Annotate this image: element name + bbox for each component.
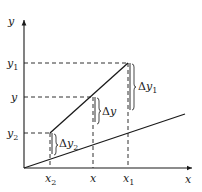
y1-label: y1	[6, 57, 18, 72]
delta-y1-label: Δy1	[138, 80, 157, 95]
brace-delta-y2	[54, 134, 58, 155]
delta-y2-label: Δy2	[59, 137, 78, 152]
brace-delta-y	[97, 98, 101, 124]
x1-label: x1	[123, 172, 134, 187]
brace-delta-y1	[132, 64, 136, 110]
y2-label: y2	[6, 127, 18, 142]
diagram-canvas: y x y1 y y2 x2 x x1 Δy1 Δy Δy2	[0, 0, 202, 192]
delta-y-label: Δy	[102, 105, 117, 118]
y-axis-label: y	[7, 15, 15, 28]
x-axis-label: x	[185, 173, 192, 186]
upper-line	[50, 63, 128, 133]
y-label: y	[10, 91, 18, 104]
x2-label: x2	[45, 172, 56, 187]
lower-line	[24, 114, 185, 168]
x-label: x	[90, 172, 97, 185]
